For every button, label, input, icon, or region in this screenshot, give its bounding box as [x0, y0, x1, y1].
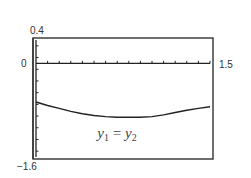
curve-annotation: y1 = y2 [95, 125, 136, 143]
annotation-equals: = [109, 125, 125, 141]
annotation-sub2: 2 [132, 132, 137, 143]
series-group [36, 102, 210, 117]
annotation-y2: y [123, 125, 132, 141]
series-line-y1-eq-y2 [36, 102, 210, 117]
ymin-label: −1.6 [17, 161, 37, 172]
annotation-y1: y [95, 125, 104, 141]
xmax-label: 1.5 [219, 59, 233, 70]
ymax-label: 0.4 [30, 25, 44, 36]
chart-svg: 0.4 0 1.5 −1.6 y1 = y2 [0, 0, 251, 178]
y-zero-label: 0 [21, 58, 27, 69]
